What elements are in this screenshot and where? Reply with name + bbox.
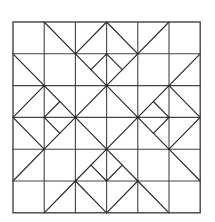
diagonal-segment (169, 54, 200, 86)
diagonal-segment (169, 86, 200, 118)
diagonal-segment (44, 22, 75, 54)
diagonal-segment (13, 86, 44, 118)
grid-lines (13, 22, 200, 213)
diagonal-segment (107, 181, 138, 213)
diagonal-segment (75, 181, 106, 213)
diagonal-segment (138, 22, 169, 54)
diagonal-segment (13, 54, 44, 86)
diagonal-segment (44, 181, 75, 213)
diagonal-segment (44, 102, 60, 118)
diagonal-segment (153, 117, 169, 133)
diagonal-segment (153, 102, 169, 118)
diagonal-segment (169, 117, 200, 149)
diagonal-segment (13, 117, 44, 149)
diagonal-segment (91, 54, 107, 70)
diagonal-segment (75, 117, 106, 149)
diagonal-segment (169, 149, 200, 181)
diagonal-segment (44, 117, 60, 133)
diagonal-segment (107, 86, 138, 118)
diagonal-segment (13, 149, 44, 181)
diagonal-segment (75, 86, 106, 118)
diagonal-segment (107, 54, 123, 70)
quilt-block-diagram (0, 0, 215, 222)
diagonal-segment (91, 165, 107, 181)
diagonal-segment (107, 117, 138, 149)
diagonal-segment (107, 165, 123, 181)
diagonal-segment (138, 181, 169, 213)
diagonal-segment (75, 22, 106, 54)
diagonal-segment (107, 22, 138, 54)
